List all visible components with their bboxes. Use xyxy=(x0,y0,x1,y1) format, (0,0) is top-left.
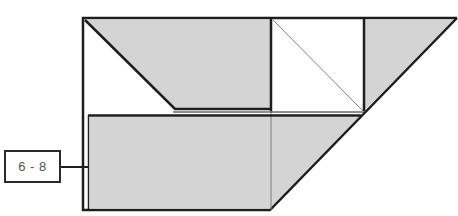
range-label: 6 - 8 xyxy=(4,150,61,183)
range-label-text: 6 - 8 xyxy=(18,159,47,174)
geometric-diagram xyxy=(0,0,458,216)
region-bottom-shaded xyxy=(90,117,359,208)
